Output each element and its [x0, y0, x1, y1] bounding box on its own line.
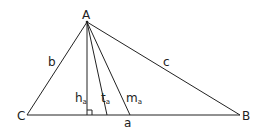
side-label-c: c [163, 55, 170, 69]
median-label: ma [126, 91, 142, 106]
right-angle-marker [87, 110, 92, 115]
side-label-b: b [48, 55, 56, 69]
triangle-diagram: A B C b c a ha ta ma [0, 0, 257, 132]
vertex-label-b: B [242, 109, 250, 123]
altitude-label: ha [75, 91, 87, 106]
vertex-label-a: A [82, 8, 91, 22]
side-label-a: a [124, 116, 131, 130]
bisector-label: ta [101, 91, 110, 106]
vertex-label-c: C [17, 109, 25, 123]
